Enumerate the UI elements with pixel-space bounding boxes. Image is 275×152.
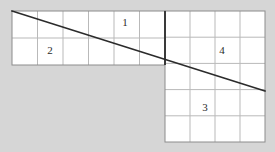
region-label-3: 3 (202, 102, 208, 113)
region-label-4: 4 (219, 45, 225, 56)
region-label-2: 2 (47, 45, 53, 56)
diagram-canvas (0, 0, 275, 152)
grid-partition-diagram: 1234 (0, 0, 275, 152)
upper-left-block (12, 11, 165, 65)
right-block (165, 11, 265, 142)
region-label-1: 1 (122, 17, 128, 28)
